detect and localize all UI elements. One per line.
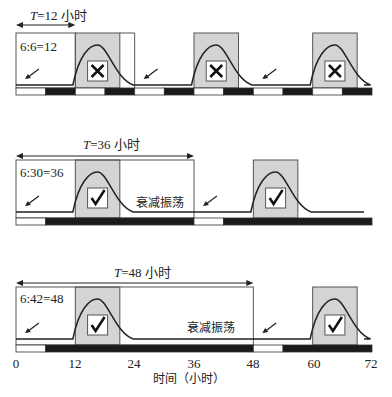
dark-period-segment [224,88,254,95]
flowering-curve [16,172,364,212]
row2-ratio-label: 6:30=36 [20,166,63,179]
x-tick-72: 72 [365,357,378,370]
dark-period-segment [46,88,76,95]
dark-period-segment [46,345,254,352]
light-period-segment [253,345,283,352]
dark-period-segment [283,345,372,352]
row3-damped-oscillation-note: 衰减振荡 [187,322,235,334]
arrowhead-icon [25,328,31,333]
arrowhead-icon [25,201,31,206]
arrowhead-icon [144,74,150,79]
x-tick-0: 0 [13,357,20,370]
row3-ratio-label: 6:42=48 [20,292,63,305]
dark-period-segment [164,88,194,95]
arrowhead-left-icon [16,280,23,286]
dark-period-segment [224,218,372,225]
row3-period-label: T=48 小时 [114,266,171,279]
arrowhead-left-icon [16,22,23,28]
light-period-segment [135,88,165,95]
dark-period-segment [105,88,135,95]
arrowhead-left-icon [16,153,23,159]
x-axis-label: 时间（小时） [153,373,225,385]
arrowhead-right-icon [246,280,253,286]
row1-ratio-label: 6:6=12 [20,40,57,53]
light-period-segment [16,88,46,95]
x-tick-48: 48 [247,357,260,370]
row1-period-label: T=12 小时 [30,9,87,22]
diagram-canvas [0,0,392,397]
light-period-segment [16,218,46,225]
light-period-segment [313,88,343,95]
x-tick-24: 24 [128,357,141,370]
arrowhead-icon [262,328,268,333]
dark-period-segment [283,88,313,95]
x-tick-36: 36 [188,357,201,370]
dark-period-segment [342,88,372,95]
photoperiod-diagram: T=12 小时 6:6=12 T=36 小时 6:30=36 衰减振荡 T=48… [0,0,392,397]
arrowhead-right-icon [187,153,194,159]
light-period-segment [16,345,46,352]
light-period-segment [194,218,224,225]
light-period-segment [75,88,105,95]
arrowhead-icon [203,201,209,206]
x-tick-12: 12 [69,357,82,370]
row2-period-label: T=36 小时 [83,138,140,151]
arrowhead-icon [262,74,268,79]
dark-period-segment [46,218,194,225]
row2-damped-oscillation-note: 衰减振荡 [136,197,184,209]
light-period-segment [194,88,224,95]
x-tick-60: 60 [308,357,321,370]
light-period-segment [253,88,283,95]
arrowhead-icon [25,74,31,79]
